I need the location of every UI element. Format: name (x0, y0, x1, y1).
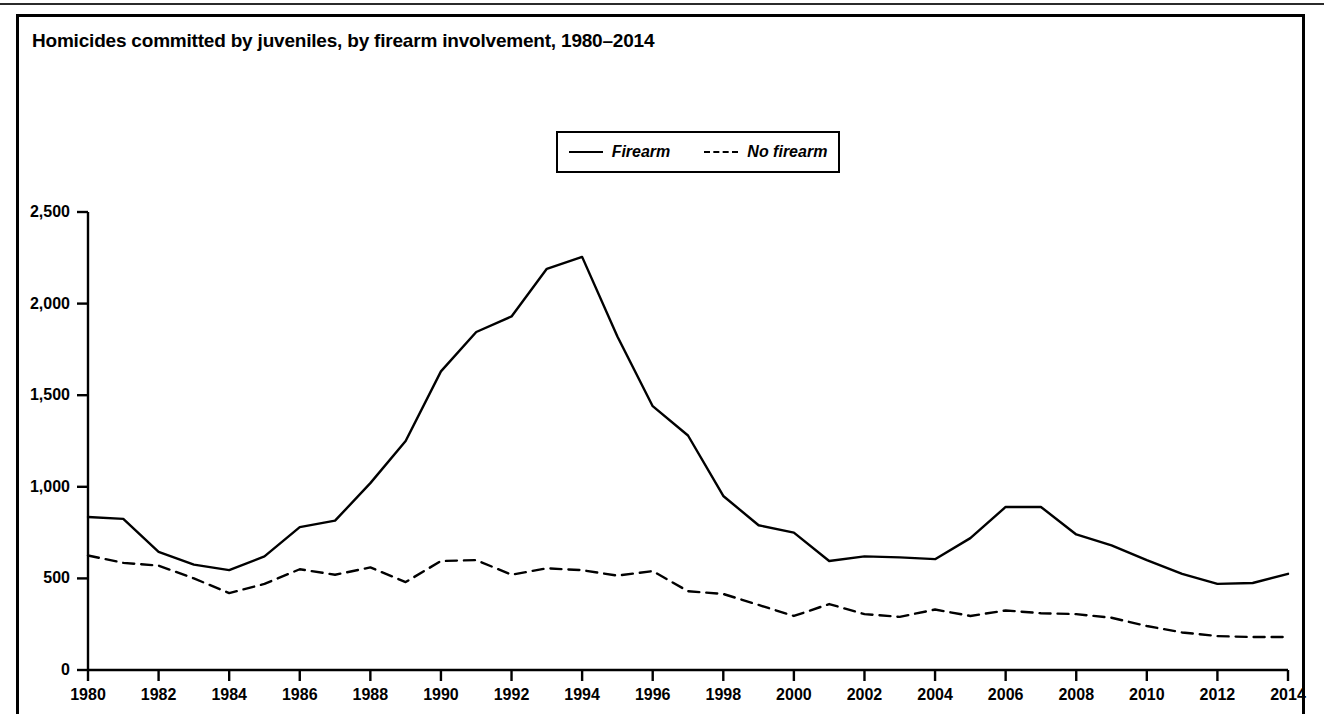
y-tick-label: 0 (0, 661, 70, 679)
x-tick-label: 2000 (776, 686, 812, 704)
x-tick-label: 1990 (423, 686, 459, 704)
x-tick-label: 1984 (211, 686, 247, 704)
x-tick-label: 1980 (70, 686, 106, 704)
series-line-firearm (88, 257, 1288, 584)
plot-area (0, 0, 1324, 716)
y-tick-label: 2,000 (0, 295, 70, 313)
y-tick-label: 500 (0, 569, 70, 587)
x-tick-label: 1988 (353, 686, 389, 704)
x-tick-label: 1998 (705, 686, 741, 704)
x-tick-label: 2004 (917, 686, 953, 704)
x-tick-label: 1992 (494, 686, 530, 704)
series-line-no-firearm (88, 556, 1288, 638)
x-tick-label: 1996 (635, 686, 671, 704)
x-tick-label: 2014 (1270, 686, 1306, 704)
y-tick-label: 1,500 (0, 386, 70, 404)
x-tick-label: 1986 (282, 686, 318, 704)
x-tick-label: 1982 (141, 686, 177, 704)
x-tick-label: 2010 (1129, 686, 1165, 704)
x-tick-label: 1994 (564, 686, 600, 704)
y-tick-label: 1,000 (0, 478, 70, 496)
x-tick-label: 2006 (988, 686, 1024, 704)
x-tick-label: 2012 (1200, 686, 1236, 704)
x-tick-label: 2008 (1058, 686, 1094, 704)
x-tick-label: 2002 (847, 686, 883, 704)
y-tick-label: 2,500 (0, 203, 70, 221)
figure-container: Homicides committed by juveniles, by fir… (0, 0, 1324, 716)
